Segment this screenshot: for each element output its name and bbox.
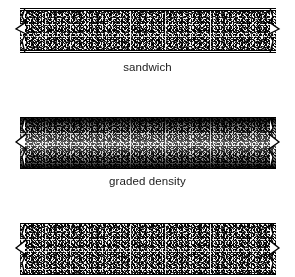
panel-caption-sandwich: sandwich [0, 60, 295, 74]
bar-core-fill [20, 8, 276, 53]
bar-edge-bottom [20, 168, 276, 169]
bar-edge-bottom [20, 274, 276, 275]
stipple-texture-fine [20, 8, 276, 53]
stipple-texture-fine [20, 117, 276, 169]
specimen-bar-uniform-third [20, 223, 276, 275]
bar-edge-top [20, 117, 276, 118]
bar-core-fill [20, 117, 276, 169]
face-sheet-bottom [20, 50, 276, 53]
bar-core-fill [20, 223, 276, 275]
specimen-bar-sandwich [20, 8, 276, 53]
stipple-texture-fine [20, 223, 276, 275]
composite-panel-figure: sandwich graded density [0, 0, 295, 277]
bar-edge-top [20, 223, 276, 224]
face-sheet-top [20, 8, 276, 11]
specimen-bar-graded-density [20, 117, 276, 169]
panel-caption-graded-density: graded density [0, 174, 295, 188]
